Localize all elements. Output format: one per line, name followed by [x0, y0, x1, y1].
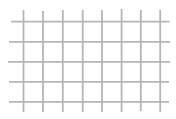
- wire-mesh-image: [0, 0, 176, 119]
- wire-mesh-grid: [0, 0, 176, 119]
